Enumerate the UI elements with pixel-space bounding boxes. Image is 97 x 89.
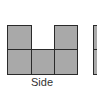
block-col2-bottom [31,49,55,75]
block-col1-bottom [7,49,32,75]
view-label: Side [0,76,84,88]
block-col3-top [54,25,78,50]
partial-block-bottom [93,49,97,75]
block-col1-top [7,25,32,50]
partial-block-top [93,25,97,50]
block-col3-bottom [54,49,78,75]
